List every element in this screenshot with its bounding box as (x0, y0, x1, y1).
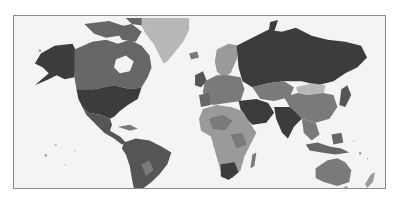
region-philippines-borneo[interactable] (331, 133, 343, 145)
region-canada[interactable] (74, 40, 151, 89)
world-map (14, 16, 385, 188)
region-iberia[interactable] (199, 93, 211, 107)
world-map-frame (13, 15, 386, 189)
